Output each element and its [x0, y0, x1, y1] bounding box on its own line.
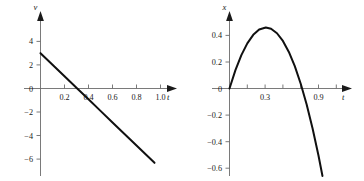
position-curve-series [230, 28, 323, 176]
figure-root: 4 2 0 −2 −4 −6 0.2 0.4 0.6 0.8 1.0 v t [0, 0, 364, 181]
x-tick-label-0-8: 0.8 [131, 93, 141, 102]
y-axis-label: x [222, 2, 227, 12]
x-axis-label: t [167, 92, 170, 102]
y-axis-label: v [34, 2, 38, 12]
y-tick-label-0-4: 0.4 [212, 31, 222, 40]
y-axis-arrowhead [37, 11, 44, 21]
y-tick-label-neg0-6: −0.6 [207, 164, 222, 173]
x-tick-label-0-9: 0.9 [313, 93, 323, 102]
y-tick-label-2: 2 [29, 61, 33, 70]
y-tick-label-neg4: −4 [24, 132, 33, 141]
y-tick-label-0-2: 0.2 [212, 58, 222, 67]
y-tick-label-neg0-2: −0.2 [207, 111, 222, 120]
y-axis-arrowhead [226, 11, 233, 21]
y-tick-label-0: 0 [29, 85, 33, 94]
y-tick-label-0: 0 [218, 85, 222, 94]
position-graph-panel: 0.4 0.2 0 −0.2 −0.4 −0.6 0.3 0.9 x t [182, 0, 364, 181]
x-tick-label-1-0: 1.0 [155, 93, 165, 102]
velocity-line-series [41, 53, 155, 163]
y-tick-label-neg2: −2 [24, 108, 33, 117]
y-tick-label-neg0-4: −0.4 [207, 138, 222, 147]
x-axis-label: t [342, 92, 345, 102]
y-tick-label-neg6: −6 [24, 155, 33, 164]
x-axis-arrowhead [167, 85, 177, 92]
x-tick-label-0-3: 0.3 [260, 93, 270, 102]
y-tick-label-4: 4 [29, 37, 33, 46]
x-tick-label-0-6: 0.6 [107, 93, 117, 102]
x-tick-label-0-2: 0.2 [59, 93, 69, 102]
x-axis-arrowhead [342, 85, 352, 92]
velocity-graph-panel: 4 2 0 −2 −4 −6 0.2 0.4 0.6 0.8 1.0 v t [0, 0, 182, 181]
